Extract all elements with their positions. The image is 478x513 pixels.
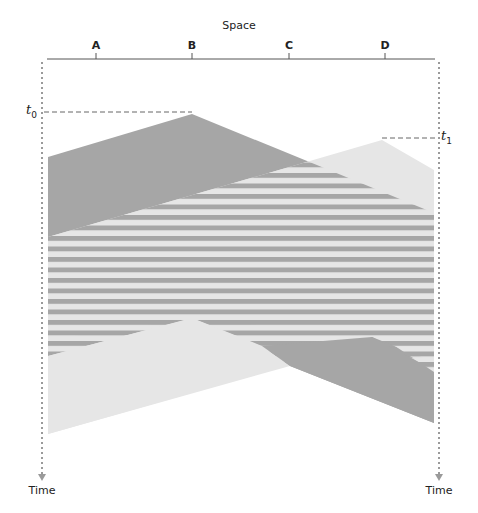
event-label-t1: t1 xyxy=(441,128,452,146)
event-label-t0: t0 xyxy=(26,102,37,120)
position-label-b: B xyxy=(188,39,196,52)
arrow-down-icon xyxy=(435,474,443,481)
arrow-down-icon xyxy=(38,474,46,481)
space-time-diagram: Space A B C D t0 t1 Time Time xyxy=(0,0,478,513)
position-label-a: A xyxy=(92,39,101,52)
position-label-c: C xyxy=(285,39,293,52)
diagram-canvas xyxy=(0,0,478,513)
time-label-left: Time xyxy=(29,484,56,497)
time-label-right: Time xyxy=(426,484,453,497)
space-axis-title: Space xyxy=(0,19,478,32)
position-label-d: D xyxy=(380,39,389,52)
